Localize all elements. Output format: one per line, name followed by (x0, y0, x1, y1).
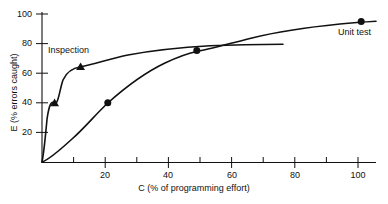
x-axis-title: C (% of programming effort) (0, 184, 388, 193)
chart-figure: 100 80 60 40 20 20 40 60 80 100 E (% err… (0, 0, 388, 204)
marker-group-inspection (50, 62, 85, 106)
data-marker-unit-test-1 (104, 99, 111, 106)
x-tick-label-60: 60 (217, 171, 247, 180)
data-marker-unit-test-3 (358, 18, 365, 25)
series-line-unit-test (42, 21, 376, 162)
series-line-inspection (42, 44, 283, 162)
x-tick-label-100: 100 (343, 171, 373, 180)
marker-group-unit-test (104, 18, 364, 106)
series-label-inspection: Inspection (48, 46, 89, 55)
data-marker-unit-test-2 (193, 47, 200, 54)
x-tick-label-40: 40 (153, 171, 183, 180)
x-tick-label-80: 80 (280, 171, 310, 180)
y-axis-title: E (% errors caught) (10, 38, 19, 148)
series-label-unit-test: Unit test (338, 28, 371, 37)
plot-area (0, 0, 388, 204)
y-tick-label-100: 100 (6, 10, 32, 19)
x-tick-label-20: 20 (90, 171, 120, 180)
